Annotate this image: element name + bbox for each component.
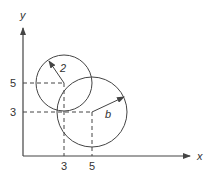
y-axis-label: y — [19, 9, 27, 21]
x-tick-3: 3 — [61, 160, 67, 172]
diagram-svg: y x 5 3 3 5 2 b — [0, 0, 211, 179]
small-radius-label: 2 — [59, 62, 66, 74]
x-tick-5: 5 — [89, 160, 95, 172]
y-tick-5: 5 — [10, 77, 16, 89]
large-radius-label: b — [105, 108, 111, 120]
diagram-canvas: y x 5 3 3 5 2 b — [0, 0, 211, 179]
y-tick-3: 3 — [10, 106, 16, 118]
axes — [23, 28, 190, 156]
x-axis-label: x — [196, 150, 203, 162]
